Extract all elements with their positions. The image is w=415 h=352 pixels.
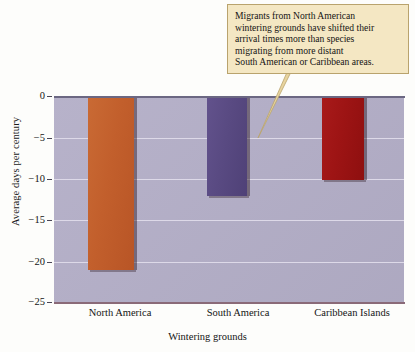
callout-line-1: Migrants from North American bbox=[235, 10, 402, 22]
bar-south-america-shadow-bottom bbox=[209, 196, 249, 198]
y-axis-title: Average days per century bbox=[10, 87, 21, 257]
annotation-callout: Migrants from North American wintering g… bbox=[227, 4, 409, 74]
y-tick-mark-minus25 bbox=[47, 302, 52, 303]
bar-south-america[interactable] bbox=[207, 97, 247, 196]
bar-caribbean-islands[interactable] bbox=[322, 97, 364, 180]
y-tick-mark-minus10 bbox=[47, 179, 52, 180]
y-tick-mark-minus15 bbox=[47, 220, 52, 221]
callout-line-2: wintering grounds have shifted their bbox=[235, 22, 402, 34]
x-tick-label-caribbean-islands: Caribbean Islands bbox=[297, 307, 407, 318]
callout-line-3: arrival times more than species bbox=[235, 33, 402, 45]
callout-line-5: South American or Caribbean areas. bbox=[235, 56, 402, 68]
bar-north-america-shadow-bottom bbox=[90, 270, 136, 272]
chart-figure: 0 −5 −10 −15 −20 −25 Average days per ce… bbox=[0, 0, 415, 352]
callout-line-4: migrating from more distant bbox=[235, 45, 402, 57]
bar-south-america-face bbox=[207, 97, 247, 196]
axis-line-zero bbox=[54, 96, 405, 98]
bar-caribbean-islands-shadow-bottom bbox=[324, 180, 366, 182]
y-tick-mark-0 bbox=[47, 96, 52, 97]
plot-area bbox=[54, 97, 404, 303]
bar-north-america-shadow bbox=[134, 97, 137, 270]
y-axis: 0 −5 −10 −15 −20 −25 bbox=[0, 0, 54, 352]
y-tick-mark-minus20 bbox=[47, 262, 52, 263]
bar-south-america-shadow bbox=[247, 97, 250, 196]
x-tick-label-south-america: South America bbox=[188, 307, 288, 318]
y-tick-label-minus25: −25 bbox=[5, 297, 45, 307]
y-tick-label-minus20: −20 bbox=[5, 257, 45, 267]
y-tick-mark-minus5 bbox=[47, 138, 52, 139]
x-axis-title: Wintering grounds bbox=[0, 331, 415, 342]
bar-caribbean-islands-shadow bbox=[364, 97, 367, 180]
bar-caribbean-islands-face bbox=[322, 97, 364, 180]
bar-north-america-face bbox=[88, 97, 134, 270]
bar-north-america[interactable] bbox=[88, 97, 134, 270]
x-tick-label-north-america: North America bbox=[70, 307, 170, 318]
axis-line-bottom bbox=[54, 302, 405, 304]
